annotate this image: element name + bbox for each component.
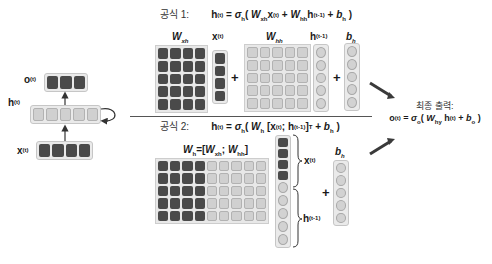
hprev-label-1: h(t-1) [310,32,327,42]
hprev-brace-label: h(t-1) [303,214,320,224]
formula-2: 공식 2:h(t) = σh( Wh [x(t); h(t-1)]T + bh … [160,121,340,137]
divider-line [130,116,372,117]
plus-2: + [333,71,341,84]
final-output-title: 최종 출력: [378,100,492,112]
x-vector-1 [212,50,228,104]
bh-label-2: bh [335,147,345,161]
plus-3: + [322,186,330,199]
concat-vector [275,135,291,248]
x-brace-label: x(t) [304,156,316,166]
bh-vector-1 [344,43,360,111]
formula-1: 공식 1:h(t) = σh( Wxhx(t) + Whhh(t-1) + bh… [160,9,352,25]
x-label-1: x(t) [212,32,224,42]
hprev-vector-1 [313,44,329,112]
plus-1: + [231,71,239,84]
formula-1-key: 공식 1: [160,9,189,20]
wxh-matrix [155,45,208,113]
wh-label: Wh=[Wxh; Whh] [183,145,248,159]
bh-vector-2 [333,160,349,226]
final-output-formula: o(t) = σo( Why h(t) + bo ) [378,112,492,128]
whh-matrix [244,44,311,112]
formula-2-key: 공식 2: [160,121,189,132]
wh-combined-matrix [155,158,269,224]
braces-icon [291,133,305,251]
rnn-arrows-icon [0,0,130,170]
wxh-label: Wxh [172,32,188,46]
final-output: 최종 출력: o(t) = σo( Why h(t) + bo ) [378,100,492,128]
